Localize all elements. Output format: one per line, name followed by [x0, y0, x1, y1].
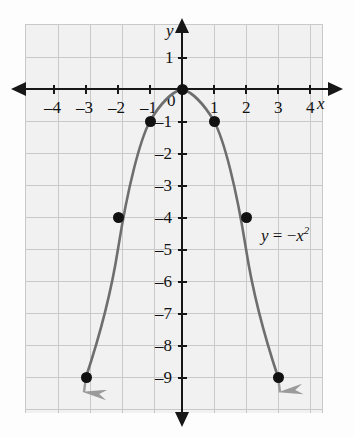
equation-sign: − — [287, 226, 297, 245]
equation-exponent: 2 — [304, 224, 310, 236]
data-point — [177, 84, 188, 95]
equation-label: y = −x2 — [261, 224, 309, 246]
parabola-curve — [0, 0, 354, 437]
graph-figure: –4 –3 –2 –1 1 2 3 4 0 1 –1 –2 –3 –4 –5 –… — [0, 0, 354, 437]
equation-equals: = — [273, 226, 283, 245]
equation-variable: x — [296, 226, 304, 245]
data-point — [241, 212, 252, 223]
data-point — [145, 116, 156, 127]
data-point — [113, 212, 124, 223]
data-point — [209, 116, 220, 127]
data-point — [273, 372, 284, 383]
data-point — [81, 372, 92, 383]
equation-lhs: y — [261, 226, 269, 245]
